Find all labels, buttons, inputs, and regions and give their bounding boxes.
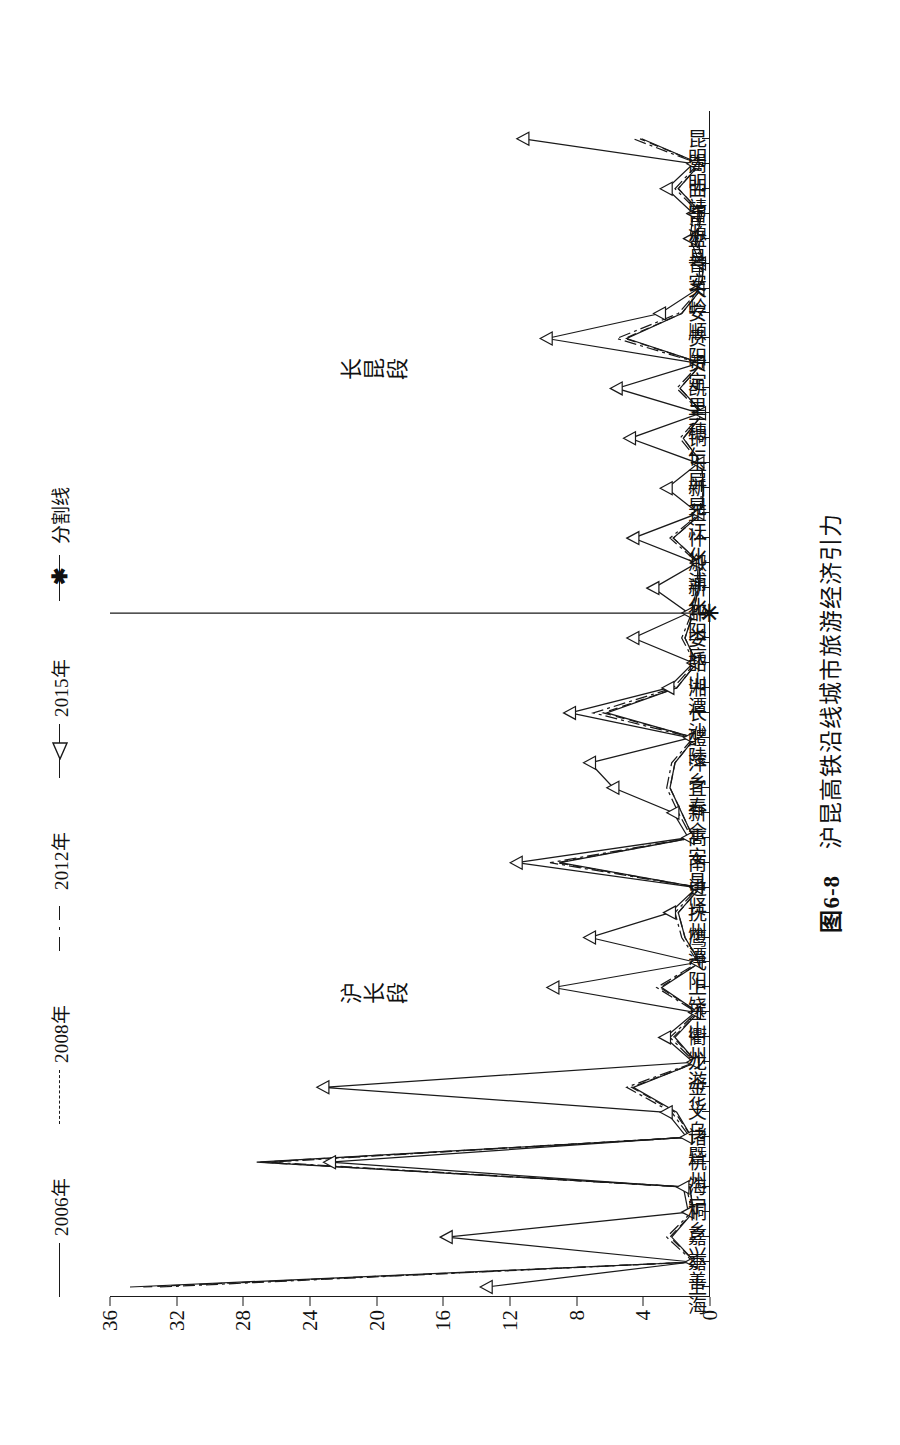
series-marker-triangle	[610, 381, 622, 394]
series-path-2006年	[130, 138, 703, 1286]
legend-label-3: 2015年	[46, 659, 73, 717]
series-marker-triangle	[584, 931, 596, 944]
legend-item-4: ✱分割线	[46, 486, 73, 605]
series-path-2012年	[160, 138, 702, 1286]
series-marker-triangle	[510, 856, 522, 869]
legend-label-1: 2008年	[46, 1005, 73, 1063]
annotation-section-left: 沪长段	[340, 980, 409, 1012]
series-marker-triangle	[624, 431, 636, 444]
figure-number: 图6-8	[819, 874, 844, 932]
figure-caption: 图6-8 沪昆高铁沿线城市旅游经济引力	[812, 53, 846, 1393]
y-tick-label: 36	[98, 1310, 123, 1331]
legend-key-dashed-icon	[53, 1070, 67, 1124]
legend-label-0: 2006年	[46, 1178, 73, 1236]
plot-area: 04812162024283236 ✳	[110, 111, 710, 1297]
legend-item-1: 2008年	[46, 1005, 73, 1124]
series-path-2008年	[143, 138, 703, 1286]
legend-key-triangle-solid-icon	[53, 724, 67, 778]
y-tick-label: 16	[431, 1310, 456, 1331]
series-marker-triangle	[547, 981, 559, 994]
series-marker-triangle	[517, 132, 529, 145]
legend-key-solid-icon	[53, 1243, 67, 1297]
series-marker-triangle	[627, 631, 639, 644]
chart-legend: 2006年2008年2012年2015年✱分割线	[46, 486, 73, 1297]
legend-item-3: 2015年	[46, 659, 73, 778]
chart-figure: 2006年2008年2012年2015年✱分割线 048121620242832…	[40, 53, 860, 1393]
series-marker-triangle	[664, 906, 676, 919]
series-marker-triangle	[627, 531, 639, 544]
y-tick-label: 32	[164, 1310, 189, 1331]
series-path-2015年	[323, 138, 700, 1286]
series-marker-triangle	[660, 481, 672, 494]
y-tick-label: 4	[631, 1310, 656, 1321]
legend-key-dashdot-icon	[53, 897, 67, 951]
legend-label-2: 2012年	[46, 832, 73, 890]
series-marker-triangle	[667, 806, 679, 819]
series-marker-triangle	[440, 1230, 452, 1243]
legend-key-cross-solid-icon: ✱	[53, 551, 67, 605]
series-marker-triangle	[564, 706, 576, 719]
series-lines	[110, 111, 710, 1297]
y-tick-label: 12	[498, 1310, 523, 1331]
series-marker-triangle	[540, 332, 552, 345]
series-marker-triangle	[647, 581, 659, 594]
legend-item-0: 2006年	[46, 1178, 73, 1297]
y-tick-label: 8	[564, 1310, 589, 1321]
legend-item-2: 2012年	[46, 832, 73, 951]
series-marker-triangle	[659, 1030, 671, 1043]
series-marker-triangle	[480, 1280, 492, 1293]
y-tick-label: 24	[298, 1310, 323, 1331]
series-marker-triangle	[660, 182, 672, 195]
series-marker-triangle	[654, 307, 666, 320]
series-marker-triangle	[584, 756, 596, 769]
y-tick-label: 20	[364, 1310, 389, 1331]
figure-caption-text: 沪昆高铁沿线城市旅游经济引力	[819, 513, 844, 849]
y-axis	[110, 1296, 710, 1297]
series-marker-triangle	[317, 1080, 329, 1093]
annotation-section-right: 长昆段	[340, 356, 409, 388]
legend-label-4: 分割线	[46, 486, 73, 544]
rotated-figure-stage: 2006年2008年2012年2015年✱分割线 048121620242832…	[40, 53, 860, 1393]
x-label-昆明: 昆明	[686, 128, 705, 166]
y-tick-label: 28	[231, 1310, 256, 1331]
